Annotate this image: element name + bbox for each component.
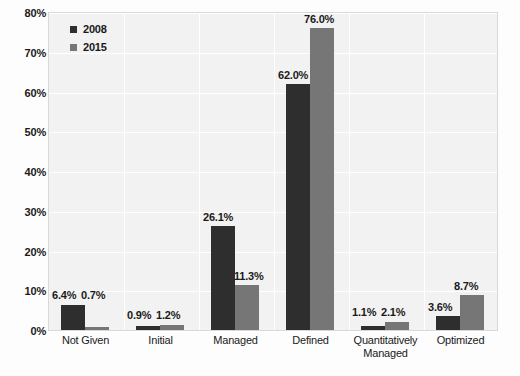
y-axis-tick-label: 20%: [2, 246, 46, 258]
bar-group: 26.1%11.3%: [198, 12, 273, 330]
x-axis-tick-line: Managed: [348, 347, 423, 360]
legend: 20082015: [70, 20, 107, 56]
bar-2008-managed[interactable]: [211, 226, 235, 330]
legend-item-2008[interactable]: 2008: [70, 20, 107, 38]
bar-2015-not-given[interactable]: [85, 327, 109, 330]
data-label: 8.7%: [454, 280, 478, 292]
x-axis-tick-line: Quantitatively: [348, 334, 423, 347]
y-axis-tick-label: 10%: [2, 285, 46, 297]
legend-swatch-icon: [70, 26, 77, 33]
x-axis-tick-label: Not Given: [48, 334, 123, 347]
data-label: 3.6%: [428, 301, 452, 313]
x-axis-tick-label: Optimized: [423, 334, 498, 347]
bar-2015-initial[interactable]: [160, 325, 184, 330]
data-label: 1.2%: [156, 309, 180, 321]
data-label: 0.7%: [81, 289, 105, 301]
data-label: 76.0%: [304, 13, 334, 25]
bar-2008-optimized[interactable]: [436, 316, 460, 330]
data-label: 2.1%: [381, 306, 405, 318]
y-axis-tick-label: 50%: [2, 126, 46, 138]
bar-group: 0.9%1.2%: [123, 12, 198, 330]
bar-2015-defined[interactable]: [310, 28, 334, 330]
x-axis-tick-line: Initial: [123, 334, 198, 347]
data-label: 11.3%: [234, 270, 264, 282]
legend-swatch-icon: [70, 44, 77, 51]
bar-2008-initial[interactable]: [136, 326, 160, 330]
legend-label: 2008: [83, 23, 107, 35]
x-axis-tick-label: QuantitativelyManaged: [348, 334, 423, 360]
x-axis-tick-line: Defined: [273, 334, 348, 347]
y-axis-tick-label: 30%: [2, 206, 46, 218]
data-label: 0.9%: [127, 309, 151, 321]
y-axis: 0%10%20%30%40%50%60%70%80%: [0, 12, 46, 330]
y-axis-tick-label: 80%: [2, 7, 46, 19]
bars-layer: 6.4%0.7%0.9%1.2%26.1%11.3%62.0%76.0%1.1%…: [48, 12, 498, 330]
chart-page: 0%10%20%30%40%50%60%70%80% 6.4%0.7%0.9%1…: [0, 0, 520, 376]
legend-label: 2015: [83, 41, 107, 53]
data-label: 1.1%: [352, 306, 376, 318]
gridline-horizontal: [49, 331, 497, 332]
x-axis-tick-label: Managed: [198, 334, 273, 347]
bar-group: 1.1%2.1%: [348, 12, 423, 330]
bar-group: 62.0%76.0%: [273, 12, 348, 330]
y-axis-tick-label: 40%: [2, 166, 46, 178]
y-axis-tick-label: 70%: [2, 47, 46, 59]
x-axis-tick-line: Optimized: [423, 334, 498, 347]
x-axis-tick-line: Managed: [198, 334, 273, 347]
y-axis-tick-label: 0%: [2, 325, 46, 337]
x-axis-tick-label: Defined: [273, 334, 348, 347]
bar-2015-quantitatively-managed[interactable]: [385, 322, 409, 330]
x-axis-tick-line: Not Given: [48, 334, 123, 347]
bar-2008-defined[interactable]: [286, 84, 310, 330]
bar-2008-not-given[interactable]: [61, 305, 85, 330]
x-axis-tick-label: Initial: [123, 334, 198, 347]
bar-group: 6.4%0.7%: [48, 12, 123, 330]
bar-2015-managed[interactable]: [235, 285, 259, 330]
bar-2008-quantitatively-managed[interactable]: [361, 326, 385, 330]
bar-group: 3.6%8.7%: [423, 12, 498, 330]
bar-2015-optimized[interactable]: [460, 295, 484, 330]
y-axis-tick-label: 60%: [2, 87, 46, 99]
data-label: 6.4%: [52, 289, 76, 301]
legend-item-2015[interactable]: 2015: [70, 38, 107, 56]
data-label: 26.1%: [203, 211, 233, 223]
data-label: 62.0%: [278, 69, 308, 81]
x-axis: Not GivenInitialManagedDefinedQuantitati…: [48, 334, 498, 374]
